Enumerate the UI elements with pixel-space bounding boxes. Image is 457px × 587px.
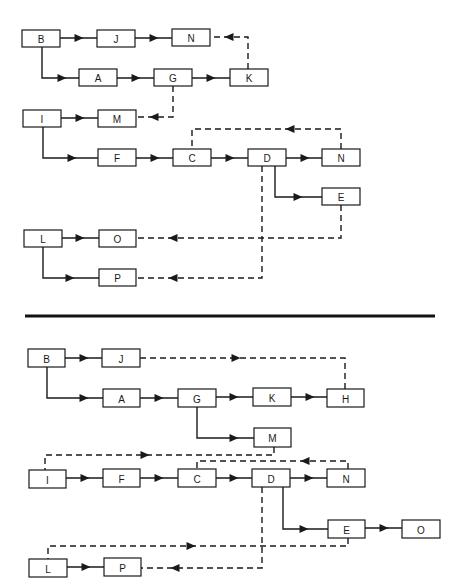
node-label: K bbox=[246, 73, 253, 84]
edge-n-to-c bbox=[192, 125, 341, 149]
arrowhead-icon bbox=[81, 474, 90, 482]
edge-l-to-p bbox=[67, 563, 104, 571]
arrowhead-icon bbox=[82, 563, 91, 571]
node-label: I bbox=[41, 114, 44, 125]
arrowhead-icon bbox=[286, 125, 295, 133]
arrowhead-icon bbox=[301, 154, 310, 162]
dashed-connector bbox=[136, 86, 173, 117]
node-label: P bbox=[119, 563, 126, 574]
arrowhead-icon bbox=[150, 34, 159, 42]
node-label: J bbox=[119, 354, 124, 365]
node-t-c: C bbox=[173, 149, 211, 166]
node-b-a: A bbox=[103, 389, 140, 407]
node-b-i: I bbox=[29, 470, 66, 488]
solid-connector bbox=[43, 127, 98, 158]
arrowhead-icon bbox=[151, 154, 160, 162]
edge-c-to-d bbox=[216, 474, 252, 482]
arrowhead-icon bbox=[66, 274, 75, 282]
node-t-g: G bbox=[154, 69, 192, 86]
node-label: P bbox=[114, 273, 121, 284]
node-label: N bbox=[342, 474, 349, 485]
edge-b-to-j bbox=[65, 354, 102, 362]
node-label: N bbox=[187, 33, 194, 44]
node-b-b: B bbox=[28, 349, 65, 367]
edge-i-to-f bbox=[66, 474, 103, 482]
arrowhead-icon bbox=[68, 154, 77, 162]
node-t-e: E bbox=[322, 188, 360, 205]
node-b-m: M bbox=[254, 428, 291, 447]
edge-g-to-k bbox=[192, 74, 230, 82]
dashed-connector bbox=[192, 129, 341, 149]
dashed-connector bbox=[141, 487, 262, 568]
node-label: D bbox=[263, 153, 270, 164]
node-t-m: M bbox=[98, 110, 136, 127]
edge-k-to-n bbox=[210, 33, 248, 69]
node-label: D bbox=[267, 474, 274, 485]
solid-connector bbox=[197, 407, 254, 438]
node-b-h: H bbox=[327, 389, 364, 407]
dashed-connector bbox=[45, 447, 274, 470]
dashed-connector bbox=[197, 461, 348, 469]
arrowhead-icon bbox=[80, 354, 89, 362]
arrowhead-icon bbox=[155, 394, 164, 402]
node-t-i: I bbox=[23, 110, 61, 127]
edge-g-to-k bbox=[216, 393, 253, 401]
arrowhead-icon bbox=[225, 33, 234, 41]
node-label: C bbox=[193, 474, 200, 485]
node-label: A bbox=[118, 394, 125, 405]
edge-e-to-l bbox=[48, 538, 348, 559]
solid-connector bbox=[283, 487, 328, 529]
dashed-connector bbox=[48, 538, 348, 559]
node-label: I bbox=[46, 475, 49, 486]
edge-m-to-i bbox=[45, 447, 274, 470]
arrowhead-icon bbox=[230, 434, 239, 442]
arrowhead-icon bbox=[141, 451, 150, 459]
edge-n-to-c bbox=[197, 457, 348, 469]
node-b-f: F bbox=[103, 469, 140, 487]
dashed-connector bbox=[210, 37, 248, 69]
arrowhead-icon bbox=[305, 474, 314, 482]
arrowhead-icon bbox=[230, 474, 239, 482]
node-t-f: F bbox=[98, 149, 136, 166]
edge-b-to-a bbox=[47, 367, 103, 402]
node-b-n: N bbox=[327, 469, 365, 487]
node-t-l: L bbox=[24, 230, 62, 247]
arrowhead-icon bbox=[155, 474, 164, 482]
arrowhead-icon bbox=[132, 74, 141, 82]
arrowhead-icon bbox=[300, 525, 309, 533]
node-label: B bbox=[38, 34, 45, 45]
node-t-j: J bbox=[97, 30, 135, 47]
node-label: O bbox=[417, 525, 425, 536]
edge-i-to-m bbox=[61, 114, 98, 122]
edges-layer bbox=[42, 33, 402, 572]
node-b-e: E bbox=[328, 520, 365, 538]
arrowhead-icon bbox=[169, 274, 178, 282]
arrowhead-icon bbox=[232, 354, 241, 362]
node-label: G bbox=[169, 73, 177, 84]
edge-j-to-h bbox=[140, 354, 345, 389]
node-t-b: B bbox=[22, 30, 60, 47]
edge-k-to-h bbox=[291, 393, 327, 401]
node-label: J bbox=[114, 34, 119, 45]
node-label: E bbox=[338, 192, 345, 203]
edge-d-to-p bbox=[136, 166, 262, 282]
node-label: E bbox=[343, 525, 350, 536]
node-label: C bbox=[188, 153, 195, 164]
node-label: M bbox=[113, 114, 121, 125]
edge-l-to-o bbox=[62, 234, 99, 242]
arrowhead-icon bbox=[207, 74, 216, 82]
edge-l-to-p bbox=[43, 247, 99, 282]
edge-e-to-o bbox=[136, 205, 341, 242]
node-label: L bbox=[40, 234, 46, 245]
arrowhead-icon bbox=[301, 457, 310, 465]
edge-g-to-m bbox=[197, 407, 254, 442]
arrowhead-icon bbox=[294, 193, 303, 201]
arrowhead-icon bbox=[58, 74, 67, 82]
node-label: H bbox=[342, 394, 349, 405]
edge-g-to-m bbox=[136, 86, 173, 121]
edge-a-to-g bbox=[140, 394, 178, 402]
edge-i-to-f bbox=[43, 127, 98, 162]
node-t-n2: N bbox=[322, 149, 360, 166]
dashed-connector bbox=[136, 166, 262, 278]
network-diagram-canvas: BJNAGKIMFCDNELOPBJAGKHMIFCDNEOLP bbox=[0, 0, 457, 587]
